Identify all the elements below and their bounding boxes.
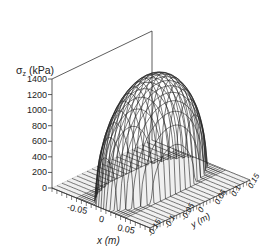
x-axis-label: x (m) bbox=[96, 235, 120, 246]
z-tick-label: 800 bbox=[32, 121, 47, 131]
x-tick-label: -0.05 bbox=[66, 202, 88, 216]
x-tick-label: 0 bbox=[98, 214, 105, 225]
z-tick-label: 0 bbox=[42, 183, 47, 193]
z-tick-label: 400 bbox=[32, 152, 47, 162]
surface-plot: 0200400600800100012001400 -0.0500.05 -0.… bbox=[0, 0, 265, 248]
z-tick-label: 600 bbox=[32, 136, 47, 146]
frame-top-edge bbox=[52, 31, 152, 79]
z-tick-label: 1200 bbox=[27, 90, 47, 100]
x-tick-label: 0.05 bbox=[117, 222, 136, 235]
z-axis: 0200400600800100012001400 bbox=[27, 74, 52, 193]
z-tick-label: 1000 bbox=[27, 105, 47, 115]
z-axis-label: σz (kPa) bbox=[16, 64, 54, 77]
y-tick-label: 0.15 bbox=[246, 172, 262, 190]
z-tick-label: 200 bbox=[32, 167, 47, 177]
